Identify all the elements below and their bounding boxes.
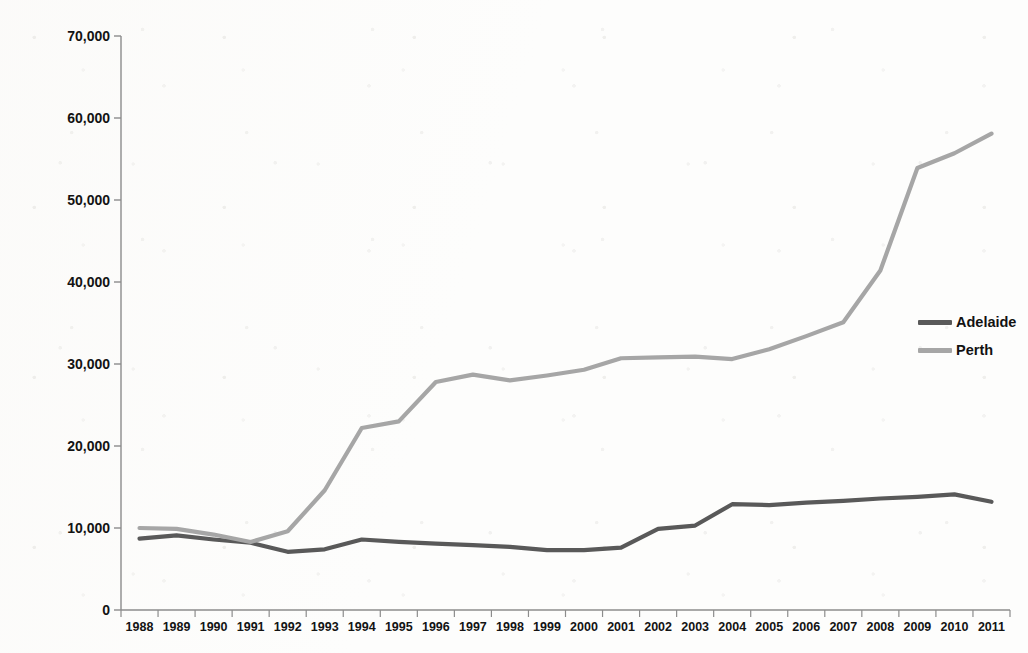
data-series-layer — [140, 134, 992, 552]
chart-legend: Adelaide Perth — [918, 308, 1028, 364]
x-tick-label: 1990 — [200, 620, 228, 634]
x-tick-label: 1995 — [385, 620, 413, 634]
x-tick-label: 1988 — [126, 620, 154, 634]
x-tick-label: 2007 — [829, 620, 857, 634]
x-tick-label: 2009 — [903, 620, 931, 634]
x-tick-label: 2004 — [718, 620, 746, 634]
x-tick-label: 1992 — [274, 620, 302, 634]
axis-lines — [121, 36, 1010, 610]
x-axis-tick-marks — [121, 610, 1010, 617]
series-line-adelaide — [140, 494, 992, 551]
rail-boardings-chart: Annual Rail Boardings (in thousands: Tra… — [0, 0, 1028, 653]
x-tick-label: 1998 — [496, 620, 524, 634]
x-tick-label: 2005 — [755, 620, 783, 634]
legend-item-perth: Perth — [918, 336, 1028, 364]
x-tick-label: 1996 — [422, 620, 450, 634]
x-tick-label: 2000 — [570, 620, 598, 634]
x-tick-label: 1994 — [348, 620, 376, 634]
x-tick-label: 1993 — [311, 620, 339, 634]
x-tick-label: 2001 — [607, 620, 635, 634]
legend-label-perth: Perth — [956, 342, 993, 358]
legend-label-adelaide: Adelaide — [956, 314, 1016, 330]
legend-swatch-perth — [918, 348, 952, 353]
x-tick-label: 1991 — [237, 620, 265, 634]
x-tick-label: 1989 — [163, 620, 191, 634]
plot-area — [0, 0, 1028, 653]
y-axis-tick-marks — [114, 36, 121, 610]
x-tick-label: 1997 — [459, 620, 487, 634]
x-tick-label: 2011 — [978, 620, 1005, 634]
legend-swatch-adelaide — [918, 320, 952, 325]
x-axis-tick-labels: 1988198919901991199219931994199519961997… — [0, 620, 1028, 653]
x-tick-label: 2006 — [792, 620, 820, 634]
x-tick-label: 2003 — [681, 620, 709, 634]
series-line-perth — [140, 134, 992, 542]
x-tick-label: 2002 — [644, 620, 672, 634]
x-tick-label: 1999 — [533, 620, 561, 634]
x-tick-label: 2010 — [941, 620, 969, 634]
x-tick-label: 2008 — [866, 620, 894, 634]
legend-item-adelaide: Adelaide — [918, 308, 1028, 336]
